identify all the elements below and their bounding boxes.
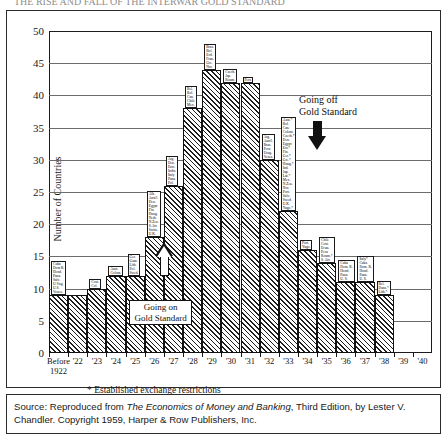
bar: Braz.Bol.Ecd.Fran.Gre.Nor. xyxy=(202,70,221,353)
bar-country-labels: ChileCost.Ecua.PeruRoum.*S. Afr. xyxy=(319,237,334,263)
bar-country-labels: Arg.Aust'l.Braz.PeruUrug.Venez. xyxy=(262,134,276,160)
country-label: Esto. xyxy=(168,165,176,169)
bar: Port.Yugo. xyxy=(298,250,317,353)
country-label: U.K. xyxy=(149,232,159,236)
bar-country-labels: Bel.Bol.Can.ChileMex. xyxy=(185,86,197,108)
x-axis-tick-mark xyxy=(355,353,356,357)
bar-country-labels: CubaDom. R.Hond.Pana.U. S. xyxy=(338,260,354,282)
bar: Aust.Colom. xyxy=(106,276,125,353)
y-axis-tick-label: 30 xyxy=(33,154,44,166)
bar-country-labels: Port.Yugo. xyxy=(300,240,313,250)
source-prefix: Source: Reproduced from xyxy=(14,401,127,412)
x-axis-tick-label: '37 xyxy=(360,356,370,366)
x-axis-tick-mark xyxy=(106,353,107,357)
y-axis-tick-label: 20 xyxy=(33,218,44,230)
country-label: Pol. xyxy=(168,181,176,185)
country-label: Czech. xyxy=(225,70,235,74)
annotation-going-off-gold-standard: Going off Gold Standard xyxy=(299,94,357,118)
bar-country-labels: Aust.*Bol.Can.Colom.Czech.*Den.EgyptEst.… xyxy=(281,117,297,211)
x-axis-tick-mark xyxy=(317,353,318,357)
x-axis-tick-mark xyxy=(394,353,395,357)
bar: CubaDom R.Hond.Pana.Salv.U.Vug.U.S.Venez… xyxy=(49,295,68,353)
country-label: Lith.* xyxy=(379,290,389,294)
chart-frame: Number of Countries 05101520253035404550… xyxy=(6,10,441,388)
y-axis-tick-label: 5 xyxy=(39,315,45,327)
bar-country-labels: Bel.Danz.*Lith.* xyxy=(377,281,391,295)
bar-country-labels: Czech.Jap.Roum. xyxy=(223,69,237,83)
x-axis-tick-label: '24 xyxy=(111,356,121,366)
annotation-going-on-gold-standard: Going on Gold Standard xyxy=(129,300,191,325)
bar: Czech.Jap.Roum. xyxy=(221,83,240,353)
x-axis-tick-mark xyxy=(260,353,261,357)
x-axis-tick-mark xyxy=(145,353,146,357)
x-axis-tick-mark xyxy=(241,353,242,357)
bar-country-labels: Aust.Colom. xyxy=(108,266,123,276)
x-axis-tick-label: '25 xyxy=(130,356,140,366)
annotation-going-off-line1: Going off xyxy=(299,94,357,106)
x-axis-tick-label: Before1922 xyxy=(47,356,70,376)
arrow-down-icon xyxy=(308,121,327,151)
bar: Italy*CubaDom. R.Hond.Pana.U. S. xyxy=(355,282,374,353)
country-label: Mex. xyxy=(187,103,195,107)
bar-country-labels: Peru xyxy=(243,77,254,83)
bar-country-labels: Braz.Bol.Ecd.Fran.Gre.Nor. xyxy=(204,44,216,70)
y-axis-tick-label: 50 xyxy=(33,25,44,37)
country-label: Pana. xyxy=(168,177,176,181)
plot-area: 05101520253035404550 CubaDom R.Hond.Pana… xyxy=(49,31,432,353)
chart-page: THE RISE AND FALL OF THE INTERWAR GOLD S… xyxy=(0,0,447,436)
x-axis-tick-label: '23 xyxy=(92,356,102,366)
bar-country-labels: Italy*CubaDom. R.Hond.Pana.U. S. xyxy=(357,256,373,282)
x-axis-tick-label: '31 xyxy=(245,356,255,366)
bar xyxy=(68,295,87,353)
bar-country-labels: CubaDom R.Hond.Pana.Salv.U.Vug.U.S.Venez… xyxy=(51,261,66,295)
country-label: Venez. xyxy=(264,155,274,159)
country-label: Yugo.* xyxy=(283,206,295,210)
y-axis-tick-label: 15 xyxy=(33,250,44,262)
x-axis-tick-mark xyxy=(202,353,203,357)
bar-country-labels: Cost.Col. xyxy=(89,279,101,289)
country-label: S. Afr. xyxy=(321,258,332,262)
x-axis-tick-mark xyxy=(279,353,280,357)
x-axis-tick-mark xyxy=(87,353,88,357)
bar-country-labels: Ger.Guat.Lith.Pol.Swed. xyxy=(128,254,141,276)
x-axis-tick-label: '39 xyxy=(398,356,408,366)
source-caption: Source: Reproduced from The Economics of… xyxy=(6,394,441,434)
y-axis-tick-label: 25 xyxy=(33,186,44,198)
bar-country-labels: Alb.Aust'l.Den.EgyptFin.Hung.Neth.N.Zea.… xyxy=(147,191,161,237)
x-axis-tick-mark xyxy=(221,353,222,357)
country-label: Den. xyxy=(168,161,176,165)
country-label: Peru xyxy=(245,78,252,82)
bar: Peru xyxy=(241,83,260,353)
x-axis-tick-label: '22 xyxy=(73,356,83,366)
x-axis-tick-label: '34 xyxy=(302,356,312,366)
country-label: Col. xyxy=(91,284,99,288)
x-axis-tick-mark xyxy=(126,353,127,357)
arrow-up-icon xyxy=(155,242,174,277)
y-axis-tick-label: 45 xyxy=(33,57,44,69)
annotation-going-on-line1: Going on xyxy=(134,302,186,313)
x-axis-tick-mark xyxy=(68,353,69,357)
x-axis-tick-label: '28 xyxy=(188,356,198,366)
bar: Cost.Col. xyxy=(87,289,106,353)
bar-series: CubaDom R.Hond.Pana.Salv.U.Vug.U.S.Venez… xyxy=(49,31,432,353)
annotation-going-off-line2: Gold Standard xyxy=(299,106,357,118)
x-axis-tick-label-line1: Before xyxy=(47,356,70,366)
country-label: Nor. xyxy=(206,65,214,69)
bar: Bel.Danz.*Lith.* xyxy=(375,295,394,353)
x-axis-tick-label: '32 xyxy=(264,356,274,366)
bar: CubaDom. R.Hond.Pana.U. S. xyxy=(336,282,355,353)
x-axis-tick-mark xyxy=(298,353,299,357)
y-axis-tick-label: 10 xyxy=(33,283,44,295)
x-axis-tick-label: '29 xyxy=(207,356,217,366)
country-label: India xyxy=(168,169,176,173)
country-label: U. S. xyxy=(359,277,371,281)
country-label: Venez. xyxy=(53,290,64,294)
x-axis-tick-label: '38 xyxy=(379,356,389,366)
x-axis-tick-mark xyxy=(183,353,184,357)
page-title-clipped: THE RISE AND FALL OF THE INTERWAR GOLD S… xyxy=(14,0,285,6)
x-axis-tick-label: '36 xyxy=(341,356,351,366)
source-title: The Economics of Money and Banking xyxy=(127,401,291,412)
y-axis-tick-label: 40 xyxy=(33,89,44,101)
y-axis-tick-label: 0 xyxy=(39,347,45,359)
bar: Arg.Aust'l.Braz.PeruUrug.Venez. xyxy=(260,160,279,353)
